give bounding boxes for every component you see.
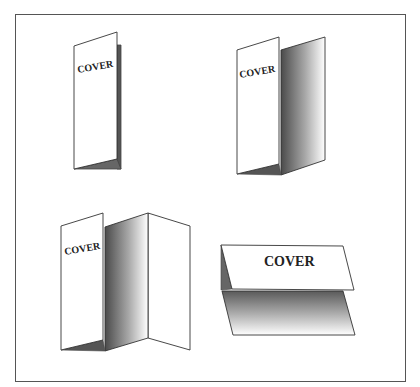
cover-panel <box>74 32 117 169</box>
brochure-fold-diagram: COVER COVER COVER COVER <box>0 0 420 387</box>
figure-bifold-open: COVER <box>237 37 325 175</box>
right-panel <box>148 213 190 350</box>
figure-bifold-closed: COVER <box>74 32 121 169</box>
cover-label: COVER <box>264 254 315 269</box>
inner-panel <box>281 37 325 175</box>
figure-tent-fold: COVER <box>221 245 355 335</box>
back-panel-edge <box>117 45 121 169</box>
cover-panel <box>61 213 103 350</box>
cover-panel <box>237 37 279 174</box>
lower-panel <box>222 291 355 335</box>
figure-trifold-open: COVER <box>61 213 190 351</box>
middle-panel <box>105 213 148 351</box>
